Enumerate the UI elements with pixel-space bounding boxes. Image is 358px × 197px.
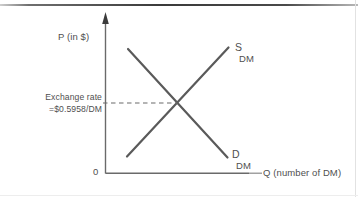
- exchange-rate-annotation-line1: Exchange rate: [45, 92, 102, 102]
- origin-label: 0: [93, 166, 98, 177]
- demand-curve-subscript: DM: [236, 160, 251, 171]
- y-axis-label: P (in $): [58, 31, 89, 42]
- supply-curve-label: S: [235, 41, 242, 53]
- y-axis-arrow-icon: [102, 12, 109, 24]
- figure-container: P (in $) Q (number of DM) 0 S DM D DM Ex…: [0, 0, 358, 197]
- demand-curve-label: D: [232, 148, 240, 160]
- exchange-rate-annotation: Exchange rate =$0.5958/DM: [24, 92, 102, 115]
- supply-curve-subscript: DM: [239, 53, 254, 64]
- exchange-rate-annotation-line2: =$0.5958/DM: [24, 104, 102, 116]
- y-axis: [102, 12, 109, 174]
- x-axis-label: Q (number of DM): [263, 167, 341, 178]
